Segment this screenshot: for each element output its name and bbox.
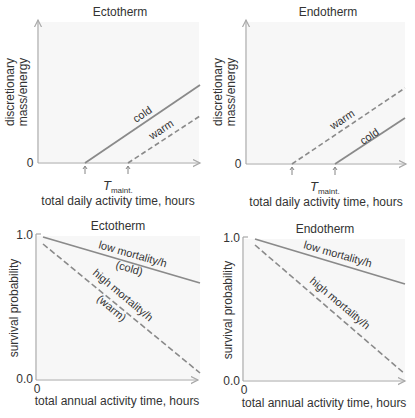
y-tick-1: 1.0 bbox=[223, 231, 240, 245]
y-tick-zero: 0 bbox=[235, 157, 242, 171]
x-axis-label: total daily activity time, hours bbox=[41, 194, 194, 208]
y-axis-label-line1: discretionary bbox=[211, 58, 225, 126]
panel-endotherm-annual: Endotherm 1.0 0.0 0 survival probability… bbox=[221, 222, 406, 410]
panel-endotherm-daily: Endotherm 0 discretionary mass/energy wa… bbox=[211, 5, 406, 209]
panel-title: Ectotherm bbox=[93, 5, 148, 19]
panel-title: Endotherm bbox=[296, 222, 355, 236]
x-axis-label: total daily activity time, hours bbox=[249, 195, 402, 209]
panel-ectotherm-daily: Ectotherm 0 discretionary mass/energy co… bbox=[3, 5, 200, 208]
y-axis-label: survival probability bbox=[221, 261, 235, 360]
up-arrow-icon bbox=[126, 166, 130, 174]
y-axis-label-line2: mass/energy bbox=[224, 58, 238, 127]
y-axis-label: survival probability bbox=[7, 259, 21, 358]
y-tick-zero: 0 bbox=[27, 156, 34, 170]
x-axis-label: total annual activity time, hours bbox=[242, 396, 407, 410]
t-maint-label: Tmaint. bbox=[310, 179, 340, 196]
up-arrow-icon bbox=[83, 166, 87, 174]
t-maint-label: Tmaint. bbox=[103, 178, 133, 195]
y-tick-1: 1.0 bbox=[16, 228, 33, 242]
y-tick-0: 0.0 bbox=[223, 374, 240, 388]
up-arrow-icon bbox=[290, 167, 294, 175]
panel-title: Ectotherm bbox=[91, 219, 146, 233]
y-tick-0: 0.0 bbox=[16, 372, 33, 386]
x-axis-label: total annual activity time, hours bbox=[35, 394, 200, 408]
panel-title: Endotherm bbox=[299, 5, 358, 19]
y-axis-label-line2: mass/energy bbox=[16, 58, 30, 127]
figure: Ectotherm 0 discretionary mass/energy co… bbox=[0, 0, 415, 418]
up-arrow-icon bbox=[333, 167, 337, 175]
y-axis-label-line1: discretionary bbox=[3, 58, 17, 126]
panel-ectotherm-annual: Ectotherm 1.0 0.0 0 survival probability… bbox=[7, 219, 200, 408]
x-tick-0: 0 bbox=[241, 383, 248, 397]
